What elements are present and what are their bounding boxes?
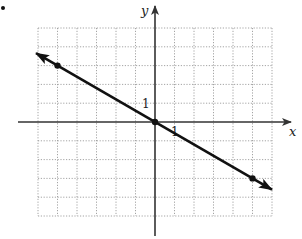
problem-bullet-mark [1, 6, 5, 10]
data-point [249, 175, 255, 181]
y-tick-label-1: 1 [142, 97, 150, 111]
line-segment [36, 53, 154, 121]
data-point [152, 119, 158, 125]
x-axis-label: x [289, 124, 297, 139]
y-axis-label: y [140, 3, 149, 18]
data-point [54, 62, 60, 68]
coordinate-plane: x y 1 1 [0, 0, 302, 239]
